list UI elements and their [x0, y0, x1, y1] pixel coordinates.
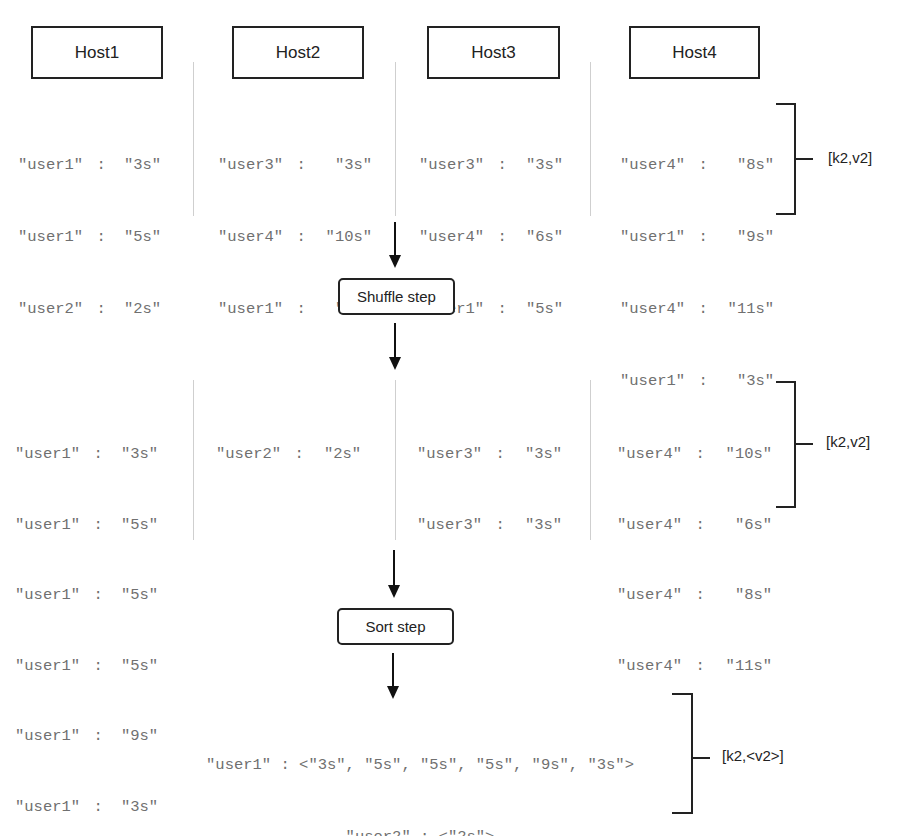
bracket-tick	[795, 158, 813, 160]
shuffle-step-label: Shuffle step	[357, 288, 436, 305]
kv-row: "user4":"11s"	[617, 655, 772, 679]
column-divider	[590, 380, 591, 540]
bracket-label-shuffle: [k2,v2]	[826, 433, 870, 450]
host3-box: Host3	[427, 26, 560, 79]
shuffled-output-col2: "user2":"2s"	[216, 396, 361, 490]
column-divider	[193, 62, 194, 216]
sort-step-label: Sort step	[365, 618, 425, 635]
kv-row: "user3":"3s"	[419, 153, 563, 177]
kv-row: "user1":"5s"	[15, 514, 158, 538]
kv-row: "user2":"2s"	[18, 297, 161, 321]
kv-row: "user4":"10s"	[617, 443, 772, 467]
host3-label: Host3	[471, 43, 515, 63]
kv-row: "user1":"9s"	[15, 725, 158, 749]
shuffle-step-box: Shuffle step	[338, 278, 455, 315]
shuffled-output-col4: "user4":"10s" "user4":"6s" "user4":"8s" …	[617, 396, 772, 702]
arrow-down-icon	[394, 323, 396, 368]
kv-row: "user1":"5s"	[15, 655, 158, 679]
bracket-map-output	[776, 103, 796, 215]
shuffled-output-col3: "user3":"3s" "user3":"3s"	[417, 396, 562, 561]
bracket-label-sort: [k2,<v2>]	[722, 747, 784, 764]
kv-row: "user1":"3s"	[15, 796, 158, 820]
kv-row: "user4":"6s"	[419, 225, 563, 249]
host2-box: Host2	[232, 26, 364, 79]
arrow-down-icon	[394, 222, 396, 266]
kv-row: "user1":"5s"	[18, 225, 161, 249]
kv-row: "user1":"3s"	[18, 153, 161, 177]
kv-row: "user2":"2s"	[216, 443, 361, 467]
column-divider	[395, 62, 396, 216]
arrow-down-icon	[393, 550, 395, 596]
kv-row: "user3":"3s"	[417, 514, 562, 538]
kv-row: "user1":"3s"	[15, 443, 158, 467]
bracket-sorted-output	[672, 693, 693, 814]
kv-row: "user1":"3s"	[620, 369, 774, 393]
kv-row: "user4":"11s"	[620, 297, 774, 321]
kv-row: "user1":"5s"	[15, 584, 158, 608]
host4-box: Host4	[629, 26, 760, 79]
kv-row: "user3":"3s"	[218, 153, 372, 177]
column-divider	[590, 62, 591, 216]
kv-row: "user4":"10s"	[218, 225, 372, 249]
sorted-row: "user2" : <"2s">	[140, 826, 700, 836]
map-output-host1: "user1":"3s" "user1":"5s" "user2":"2s"	[18, 105, 161, 345]
kv-row: "user4":"6s"	[617, 514, 772, 538]
bracket-tick	[692, 757, 710, 759]
host2-label: Host2	[276, 43, 320, 63]
sort-step-box: Sort step	[337, 608, 454, 645]
column-divider	[395, 380, 396, 540]
map-output-host4: "user4":"8s" "user1":"9s" "user4":"11s" …	[620, 105, 774, 417]
host1-label: Host1	[75, 43, 119, 63]
shuffled-output-col1: "user1":"3s" "user1":"5s" "user1":"5s" "…	[15, 396, 158, 836]
kv-row: "user4":"8s"	[620, 153, 774, 177]
kv-row: "user4":"8s"	[617, 584, 772, 608]
sorted-output: "user1" : <"3s", "5s", "5s", "5s", "9s",…	[140, 707, 700, 836]
sorted-row: "user1" : <"3s", "5s", "5s", "5s", "9s",…	[140, 754, 700, 778]
host4-label: Host4	[672, 43, 716, 63]
column-divider	[193, 380, 194, 540]
kv-row: "user1":"9s"	[620, 225, 774, 249]
bracket-shuffled-output	[776, 381, 796, 508]
bracket-label-map: [k2,v2]	[828, 149, 872, 166]
arrow-down-icon	[392, 653, 394, 697]
kv-row: "user3":"3s"	[417, 443, 562, 467]
bracket-tick	[795, 443, 813, 445]
host1-box: Host1	[31, 26, 163, 79]
